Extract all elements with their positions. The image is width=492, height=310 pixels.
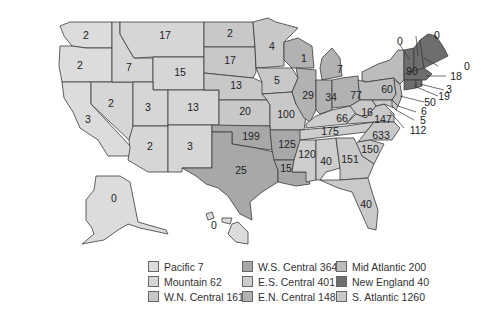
label-MA: 18 (450, 70, 462, 82)
legend-swatch (242, 261, 253, 272)
legend-item: E.S. Central 401 (242, 275, 336, 288)
label-VT: 0 (397, 35, 403, 47)
legend-swatch (148, 261, 159, 272)
state-WI (284, 38, 314, 68)
label-NE: 13 (230, 79, 242, 91)
legend-label: Pacific 7 (164, 261, 204, 273)
legend-label: Mountain 62 (164, 276, 222, 288)
legend-swatch (336, 276, 347, 287)
label-MN: 4 (269, 40, 275, 52)
legend-item: W.N. Central 161 (148, 290, 242, 303)
legend-label: S. Atlantic 1260 (352, 291, 425, 303)
label-AZ: 2 (147, 140, 153, 152)
label-IA: 5 (274, 74, 280, 86)
label-OH: 77 (350, 89, 362, 101)
state-NY (362, 50, 404, 84)
label-NY: 90 (406, 65, 418, 77)
label-UT: 3 (145, 101, 151, 113)
legend-swatch (148, 291, 159, 302)
label-LA: 15 (280, 162, 292, 174)
label-TX: 25 (235, 164, 247, 176)
label-WY: 15 (174, 66, 186, 78)
legend-label: E.S. Central 401 (258, 276, 335, 288)
label-HI: 0 (211, 219, 217, 231)
label-CA: 3 (85, 113, 91, 125)
label-ID: 7 (126, 61, 132, 73)
label-WA: 2 (83, 29, 89, 41)
legend-label: E.N. Central 148 (258, 291, 336, 303)
label-WI: 1 (301, 52, 307, 64)
legend-item: Mid Atlantic 200 (336, 260, 430, 273)
legend-item: W.S. Central 364 (242, 260, 336, 273)
legend-label: W.S. Central 364 (258, 261, 337, 273)
label-IL: 29 (302, 89, 314, 101)
label-VA: 147 (374, 113, 392, 125)
label-NV: 2 (108, 97, 114, 109)
label-MO: 100 (277, 108, 295, 120)
label-NM: 3 (187, 140, 193, 152)
legend-swatch (148, 276, 159, 287)
label-AL: 40 (320, 155, 332, 167)
label-MI: 7 (337, 63, 343, 75)
legend-item: S. Atlantic 1260 (336, 290, 430, 303)
label-WV: 16 (361, 106, 373, 118)
legend-swatch (336, 261, 347, 272)
label-NH: 0 (434, 29, 440, 41)
label-TN: 175 (321, 125, 339, 137)
legend-label: W.N. Central 161 (164, 291, 244, 303)
label-KY: 66 (336, 112, 348, 124)
legend-label: Mid Atlantic 200 (352, 261, 426, 273)
label-OR: 2 (77, 59, 83, 71)
legend-item: Mountain 62 (148, 275, 242, 288)
label-KS: 20 (239, 105, 251, 117)
label-FL: 40 (360, 198, 372, 210)
label-PA: 60 (381, 83, 393, 95)
legend-swatch (336, 291, 347, 302)
label-ME: 0 (464, 60, 470, 72)
legend-swatch (242, 291, 253, 302)
us-map: 2 2 3 2 7 17 15 3 13 2 3 2 17 13 20 4 5 … (0, 0, 492, 250)
legend-swatch (242, 276, 253, 287)
label-AK: 0 (111, 192, 117, 204)
label-MS: 120 (298, 148, 316, 160)
label-GA: 151 (341, 153, 359, 165)
state-CT (404, 80, 416, 90)
legend-item: Pacific 7 (148, 260, 242, 273)
legend-item: E.N. Central 148 (242, 290, 336, 303)
label-DC: 112 (410, 124, 427, 136)
label-SC: 150 (361, 143, 379, 155)
legend-label: New England 40 (352, 276, 429, 288)
state-AK (82, 176, 168, 244)
label-CT: 19 (438, 90, 450, 102)
label-ND: 2 (227, 27, 233, 39)
legend: Pacific 7 W.S. Central 364 Mid Atlantic … (148, 260, 430, 303)
label-OK: 199 (242, 130, 260, 142)
legend-item: New England 40 (336, 275, 430, 288)
label-CO: 13 (187, 101, 199, 113)
label-NC: 633 (372, 129, 390, 141)
state-HI (228, 222, 248, 244)
label-AR: 125 (278, 138, 296, 150)
hi-island (222, 218, 232, 224)
label-SD: 17 (224, 54, 236, 66)
state-OR (59, 46, 112, 82)
label-IN: 34 (325, 91, 337, 103)
label-MT: 17 (159, 29, 171, 41)
